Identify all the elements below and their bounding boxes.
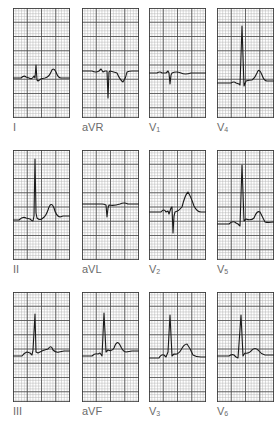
lead-number: 1: [156, 126, 160, 133]
grid-lines: [149, 150, 206, 260]
ecg-panel-v6: [217, 292, 274, 402]
lead-label-avr: aVR: [82, 122, 103, 133]
grid-lines: [13, 150, 70, 260]
lead-label-v3: V3: [149, 406, 160, 419]
ecg-grid: [217, 8, 274, 118]
ecg-grid: [82, 292, 139, 402]
ecg-panel-iii: [13, 292, 70, 402]
ecg-grid: [13, 292, 70, 402]
ecg-panel-v2: [149, 150, 206, 260]
grid-lines: [13, 8, 70, 118]
lead-name: aVR: [82, 121, 103, 133]
lead-name: III: [13, 405, 22, 417]
lead-name: aVF: [82, 405, 102, 417]
grid-lines: [82, 292, 139, 402]
ecg-grid: [217, 292, 274, 402]
lead-label-ii: II: [13, 264, 19, 275]
ecg-grid: [149, 8, 206, 118]
grid-lines: [217, 150, 274, 260]
ecg-panel-i: [13, 8, 70, 118]
ecg-grid: [82, 8, 139, 118]
ecg-panel-avl: [82, 150, 139, 260]
grid-lines: [149, 292, 206, 402]
ecg-grid: [217, 150, 274, 260]
lead-label-v1: V1: [149, 122, 160, 135]
ecg-panel-avf: [82, 292, 139, 402]
ecg-panel-v4: [217, 8, 274, 118]
ecg-grid: [149, 150, 206, 260]
lead-number: 3: [156, 410, 160, 417]
ecg-panel-avr: [82, 8, 139, 118]
ecg-panel-v3: [149, 292, 206, 402]
lead-number: 5: [224, 268, 228, 275]
lead-label-i: I: [13, 122, 16, 133]
grid-lines: [217, 292, 274, 402]
lead-label-avl: aVL: [82, 264, 102, 275]
lead-label-v2: V2: [149, 264, 160, 277]
lead-number: 2: [156, 268, 160, 275]
grid-lines: [217, 8, 274, 118]
grid-lines: [149, 8, 206, 118]
lead-label-v6: V6: [217, 406, 228, 419]
lead-label-v5: V5: [217, 264, 228, 277]
lead-name: aVL: [82, 263, 102, 275]
ecg-panel-v5: [217, 150, 274, 260]
lead-label-avf: aVF: [82, 406, 102, 417]
ecg-panel-v1: [149, 8, 206, 118]
lead-number: 6: [224, 410, 228, 417]
lead-number: 4: [224, 126, 228, 133]
grid-lines: [82, 8, 139, 118]
ecg-panel-ii: [13, 150, 70, 260]
lead-name: II: [13, 263, 19, 275]
lead-label-v4: V4: [217, 122, 228, 135]
ecg-grid: [13, 150, 70, 260]
ecg-grid: [13, 8, 70, 118]
lead-label-iii: III: [13, 406, 22, 417]
lead-name: I: [13, 121, 16, 133]
ecg-grid: [149, 292, 206, 402]
grid-lines: [13, 292, 70, 402]
ecg-grid: [82, 150, 139, 260]
